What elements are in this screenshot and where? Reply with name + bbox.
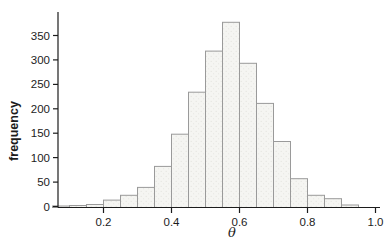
y-tick-label: 0 [44, 201, 50, 213]
x-tick-label: 0.4 [164, 216, 181, 228]
y-tick-label: 50 [37, 176, 50, 188]
histogram-bar [104, 200, 121, 207]
histogram-bar [257, 103, 274, 207]
histogram-bar [308, 195, 325, 207]
histogram-chart: 0.20.40.60.81.0 050100150200250300350 θ … [0, 0, 385, 252]
y-tick-label: 350 [31, 30, 50, 42]
histogram-bar [172, 134, 189, 207]
figure-canvas: 0.20.40.60.81.0 050100150200250300350 θ … [0, 0, 385, 252]
y-tick-label: 200 [31, 103, 50, 115]
histogram-bar [274, 142, 291, 208]
y-tick-label: 250 [31, 78, 50, 90]
histogram-bar [223, 22, 240, 207]
histogram-bar [206, 51, 223, 207]
y-axis-title: frequency [7, 101, 21, 161]
histogram-bar [325, 199, 342, 208]
histogram-bar [240, 63, 257, 207]
histogram-bars [53, 22, 359, 207]
histogram-bar [155, 166, 172, 207]
histogram-bar [189, 92, 206, 207]
x-tick-label: 0.8 [300, 216, 316, 228]
y-axis-ticks: 050100150200250300350 [31, 30, 58, 213]
y-tick-label: 100 [31, 152, 50, 164]
x-axis-ticks: 0.20.40.60.81.0 [96, 208, 384, 228]
histogram-bar [291, 179, 308, 208]
x-axis-title: θ [228, 225, 236, 240]
y-tick-label: 300 [31, 54, 50, 66]
x-tick-label: 0.2 [96, 216, 112, 228]
histogram-bar [138, 187, 155, 207]
y-tick-label: 150 [31, 127, 50, 139]
histogram-bar [121, 195, 138, 207]
x-tick-label: 1.0 [368, 216, 384, 228]
